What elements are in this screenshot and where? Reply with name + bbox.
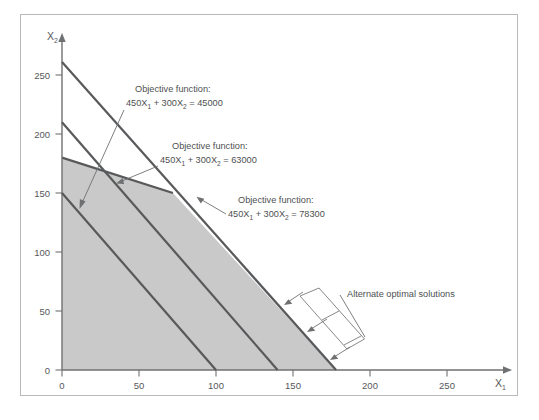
objective-annotation-78300-line1: Objective function: (238, 195, 314, 205)
obj2-value: = 63000 (221, 155, 257, 165)
obj1-coef1: 450X (126, 98, 147, 108)
y-tick-label-200: 200 (34, 129, 50, 140)
y-tick-label-100: 100 (34, 247, 50, 258)
obj1-coef2: + 300X (151, 98, 183, 108)
objective-78300-leader (202, 200, 226, 214)
x-tick-label-100: 100 (208, 380, 224, 391)
alternate-optima-arrow-3-line (334, 347, 350, 357)
objective-63000-leader (122, 166, 158, 181)
y-tick-label-0: 0 (45, 365, 50, 376)
x-tick-label-250: 250 (439, 380, 455, 391)
y-axis-label-text: X (47, 30, 54, 42)
x-tick-label-200: 200 (362, 380, 378, 391)
plot-canvas: 250 200 150 100 50 0 0 50 100 150 200 25… (0, 0, 539, 420)
obj3-coef1: 450X (228, 209, 249, 219)
objective-annotation-63000-line2: 450X1 + 300X2 = 63000 (160, 155, 257, 167)
y-axis-label: X2 (47, 30, 58, 44)
x-tick-label-150: 150 (285, 380, 301, 391)
obj2-coef1: 450X (160, 155, 181, 165)
y-axis-label-subscript: 2 (54, 37, 58, 44)
x-tick-label-0: 0 (59, 380, 64, 391)
alternate-optima-bracket-div-2 (344, 336, 361, 345)
objective-annotation-63000-line1: Objective function: (172, 141, 248, 151)
y-tick-label-50: 50 (39, 306, 50, 317)
obj3-value: = 78300 (289, 209, 325, 219)
feasible-region-shaded-area (62, 158, 336, 370)
x-axis-label-text: X (495, 377, 502, 389)
x-axis-arrowhead (503, 366, 512, 373)
objective-annotation-45000-line1: Objective function: (135, 84, 211, 94)
objective-78300-arrowhead (197, 197, 205, 204)
obj2-coef2: + 300X (185, 155, 217, 165)
x-axis-label-subscript: 1 (502, 384, 506, 391)
obj3-coef2: + 300X (253, 209, 285, 219)
y-tick-label-250: 250 (34, 70, 50, 81)
obj1-value: = 45000 (187, 98, 223, 108)
objective-annotation-45000-line2: 450X1 + 300X2 = 45000 (126, 98, 223, 110)
alternate-optima-label: Alternate optimal solutions (347, 289, 455, 299)
y-axis-arrowhead (58, 33, 65, 42)
y-tick-label-150: 150 (34, 188, 50, 199)
alternate-optima-bracket-div-1 (322, 311, 339, 320)
objective-annotation-78300-line2: 450X1 + 300X2 = 78300 (228, 209, 325, 221)
x-tick-label-50: 50 (134, 380, 145, 391)
x-axis-label: X1 (495, 377, 506, 391)
